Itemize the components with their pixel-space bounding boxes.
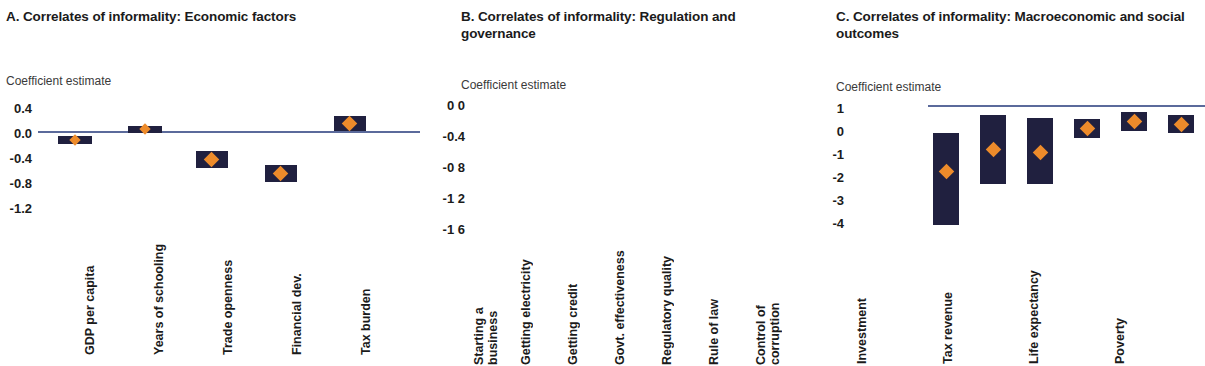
panel-b-xlabel-getting-credit: Getting credit [567,250,597,365]
panel-c-xlabel-poverty: Poverty [1114,236,1128,364]
panel-c-ytick-2: -1 [808,147,844,162]
panel-a-ytick-2: -0.4 [0,151,32,166]
panel-b-xlabel-control-of-corruption: Control of corruption [755,250,785,365]
panel-a-ytick-0: 0.4 [0,101,32,116]
panel-c-xlabel-life-expectancy: Life expectancy [1028,236,1042,364]
figure-correlates-of-informality: A. Correlates of informality: Economic f… [0,0,1205,366]
panel-c-xlabel-investment: Investment [856,236,870,364]
panel-a-title: A. Correlates of informality: Economic f… [6,8,336,25]
panel-a-xlabel-gdp-per-capita: GDP per capita [84,215,98,355]
panel-a-xlabel-years-of-schooling: Years of schooling [153,215,167,355]
panel-b-ytick-3: -1 2 [417,191,465,206]
panel-c-ytick-3: -2 [808,170,844,185]
panel-a-ytick-4: -1.2 [0,201,32,216]
panel-b-xlabel-govt-effectiveness: Govt. effectiveness [614,250,644,365]
panel-a: A. Correlates of informality: Economic f… [0,0,455,366]
panel-b-axis-caption: Coefficient estimate [461,78,566,92]
panel-a-ytick-1: 0.0 [0,126,32,141]
panel-b-xlabel-rule-of-law: Rule of law [708,250,738,365]
panel-b-xlabel-getting-electricity: Getting electricity [520,250,550,365]
panel-c-xlabel-tax-revenue: Tax revenue [942,236,956,364]
panel-c-title: C. Correlates of informality: Macroecono… [836,8,1196,42]
panel-a-xlabel-trade-openness: Trade openness [222,215,236,355]
panel-b: B. Correlates of informality: Regulation… [455,0,830,366]
panel-c-axis-caption: Coefficient estimate [836,80,941,94]
panel-a-plot-area [38,98,438,206]
panel-b-ytick-1: -0.4 [417,129,465,144]
panel-b-ytick-2: -0 8 [417,160,465,175]
panel-b-xlabel-starting-a-business: Starting a business [473,250,503,365]
panel-a-ytick-3: -0.8 [0,176,32,191]
panel-a-zero-line [38,131,420,133]
panel-c-ytick-0: 1 [808,101,844,116]
panel-b-ytick-0: 0 0 [417,98,465,113]
panel-c-ytick-5: -4 [808,216,844,231]
panel-c-ytick-4: -3 [808,193,844,208]
panel-a-xlabel-tax-burden: Tax burden [360,215,374,355]
panel-a-xlabel-financial-dev: Financial dev. [291,215,305,355]
panel-b-xlabel-regulatory-quality: Regulatory quality [661,250,691,365]
panel-c-ytick-1: 0 [808,124,844,139]
panel-c: C. Correlates of informality: Macroecono… [830,0,1205,366]
panel-b-title: B. Correlates of informality: Regulation… [461,8,791,42]
panel-a-axis-caption: Coefficient estimate [6,74,111,88]
panel-b-ytick-4: -1 6 [417,222,465,237]
